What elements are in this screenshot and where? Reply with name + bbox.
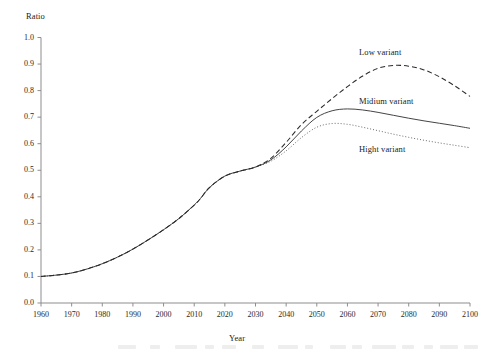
x-axis-ticks <box>41 303 470 307</box>
y-tick-label: 0.3 <box>8 218 34 227</box>
page-edge-artifact-mark <box>440 345 458 349</box>
page-edge-artifact-mark <box>278 345 298 349</box>
series-label-hight-variant: Hight variant <box>359 144 405 154</box>
page-edge-artifact-mark <box>330 345 346 349</box>
y-tick-label: 0.0 <box>8 298 34 307</box>
page-edge-artifact-mark <box>464 345 478 349</box>
y-tick-label: 0.2 <box>8 245 34 254</box>
series-label-midium-variant: Midium variant <box>359 96 414 106</box>
page-edge-artifact-mark <box>222 345 236 349</box>
page-edge-artifact-mark <box>352 345 362 349</box>
y-tick-label: 0.7 <box>8 112 34 121</box>
y-axis-title: Ratio <box>26 11 45 21</box>
page-edge-artifact-mark <box>424 345 433 349</box>
y-tick-label: 0.8 <box>8 86 34 95</box>
x-axis-title: Year <box>229 333 245 343</box>
series-label-low-variant: Low variant <box>359 47 401 57</box>
page-edge-artifact-mark <box>402 345 414 349</box>
y-tick-label: 0.1 <box>8 271 34 280</box>
page-edge-artifact-mark <box>252 345 264 349</box>
y-tick-label: 0.6 <box>8 139 34 148</box>
x-tick-label: 2100 <box>450 310 490 319</box>
page-edge-artifact-mark <box>175 345 197 349</box>
series-line-midium-variant <box>41 109 470 277</box>
y-tick-label: 0.9 <box>8 59 34 68</box>
axis-lines <box>41 38 470 304</box>
page-edge-artifact-mark <box>305 345 313 349</box>
series-line-hight-variant <box>41 123 470 276</box>
figure-canvas: Ratio Year 0.00.10.20.30.40.50.60.70.80.… <box>0 0 492 351</box>
page-edge-artifact-mark <box>150 345 160 349</box>
chart-plot-area <box>0 0 492 351</box>
page-edge-artifact-mark <box>118 345 136 349</box>
y-tick-label: 0.4 <box>8 192 34 201</box>
y-tick-label: 1.0 <box>8 33 34 42</box>
y-axis-ticks <box>38 38 42 304</box>
page-edge-artifact-mark <box>372 345 396 349</box>
page-edge-artifact-mark <box>205 345 214 349</box>
y-tick-label: 0.5 <box>8 165 34 174</box>
page-edge-artifact <box>0 344 492 351</box>
